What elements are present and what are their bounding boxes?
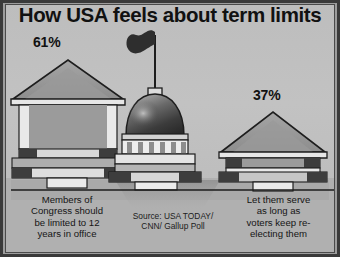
right-caption-line-1: Let them serve — [226, 194, 331, 205]
right-percent-label: 37% — [253, 87, 280, 103]
source-line-2: CNN/ Gallup Poll — [113, 222, 233, 232]
capitol-dome-icon — [109, 30, 201, 190]
left-caption-line-3: be limited to 12 — [12, 217, 122, 228]
capitol-left-wing-icon — [11, 60, 125, 188]
left-caption-line-2: Congress should — [12, 205, 122, 216]
right-caption: Let them serve as long as voters keep re… — [226, 194, 331, 240]
right-caption-line-4: electing them — [226, 228, 331, 239]
source-note: Source: USA TODAY/ CNN/ Gallup Poll — [113, 212, 233, 232]
left-caption: Members of Congress should be limited to… — [12, 194, 122, 240]
infographic-root: How USA feels about term limits 61% 37% … — [0, 0, 340, 257]
left-caption-line-4: years in office — [12, 228, 122, 239]
right-caption-line-2: as long as — [226, 205, 331, 216]
page-title: How USA feels about term limits — [0, 3, 340, 27]
flag-icon — [126, 30, 155, 53]
capitol-right-wing-icon — [219, 112, 327, 191]
left-caption-line-1: Members of — [12, 194, 122, 205]
right-caption-line-3: voters keep re- — [226, 217, 331, 228]
left-percent-label: 61% — [33, 34, 60, 50]
